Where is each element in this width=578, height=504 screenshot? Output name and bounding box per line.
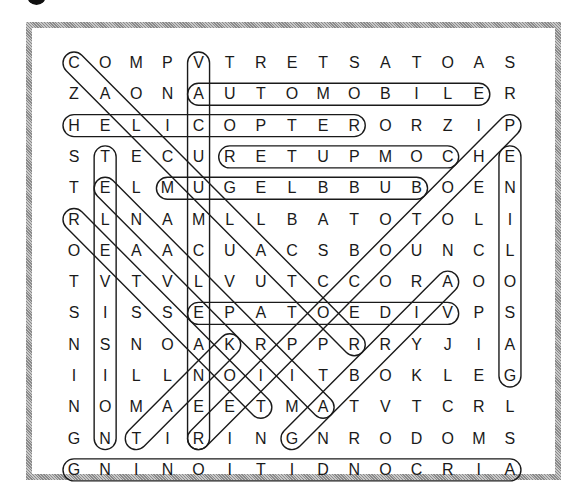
grid-letter[interactable]: O [402, 142, 432, 172]
grid-letter[interactable]: P [308, 330, 338, 360]
grid-letter[interactable]: L [121, 361, 151, 391]
grid-letter[interactable]: A [246, 298, 276, 328]
grid-letter[interactable]: I [277, 455, 307, 485]
grid-letter[interactable]: I [90, 298, 120, 328]
grid-letter[interactable]: I [277, 361, 307, 391]
grid-letter[interactable]: I [402, 79, 432, 109]
grid-letter[interactable]: O [152, 330, 182, 360]
grid-letter[interactable]: T [277, 142, 307, 172]
grid-letter[interactable]: H [464, 142, 494, 172]
grid-letter[interactable]: T [90, 142, 120, 172]
grid-letter[interactable]: R [370, 330, 400, 360]
grid-letter[interactable]: B [277, 205, 307, 235]
grid-letter[interactable]: I [90, 361, 120, 391]
grid-letter[interactable]: M [370, 142, 400, 172]
grid-letter[interactable]: U [215, 236, 245, 266]
grid-letter[interactable]: C [402, 455, 432, 485]
grid-letter[interactable]: T [121, 267, 151, 297]
grid-letter[interactable]: T [402, 392, 432, 422]
grid-letter[interactable]: T [308, 361, 338, 391]
grid-letter[interactable]: O [339, 79, 369, 109]
grid-letter[interactable]: V [152, 267, 182, 297]
grid-letter[interactable]: T [121, 424, 151, 454]
grid-letter[interactable]: A [495, 455, 525, 485]
grid-letter[interactable]: T [246, 392, 276, 422]
grid-letter[interactable]: G [59, 424, 89, 454]
grid-letter[interactable]: A [246, 236, 276, 266]
grid-letter[interactable]: L [215, 205, 245, 235]
grid-letter[interactable]: T [246, 79, 276, 109]
grid-letter[interactable]: L [495, 236, 525, 266]
grid-letter[interactable]: S [90, 330, 120, 360]
grid-letter[interactable]: L [121, 111, 151, 141]
grid-letter[interactable]: T [402, 205, 432, 235]
grid-letter[interactable]: S [59, 142, 89, 172]
grid-letter[interactable]: O [90, 48, 120, 78]
grid-letter[interactable]: A [184, 330, 214, 360]
grid-letter[interactable]: M [152, 173, 182, 203]
grid-letter[interactable]: A [184, 79, 214, 109]
grid-letter[interactable]: K [402, 361, 432, 391]
grid-letter[interactable]: O [308, 298, 338, 328]
grid-letter[interactable]: O [277, 79, 307, 109]
grid-letter[interactable]: R [339, 330, 369, 360]
grid-letter[interactable]: E [246, 142, 276, 172]
grid-letter[interactable]: L [464, 205, 494, 235]
grid-letter[interactable]: E [184, 298, 214, 328]
grid-letter[interactable]: U [246, 267, 276, 297]
grid-letter[interactable]: S [495, 48, 525, 78]
grid-letter[interactable]: R [464, 392, 494, 422]
grid-letter[interactable]: A [308, 392, 338, 422]
grid-letter[interactable]: N [90, 455, 120, 485]
grid-letter[interactable]: O [184, 455, 214, 485]
grid-letter[interactable]: P [246, 111, 276, 141]
grid-letter[interactable]: U [215, 79, 245, 109]
grid-letter[interactable]: O [370, 205, 400, 235]
grid-letter[interactable]: O [433, 48, 463, 78]
grid-letter[interactable]: S [339, 48, 369, 78]
grid-letter[interactable]: N [59, 330, 89, 360]
grid-letter[interactable]: T [277, 267, 307, 297]
grid-letter[interactable]: D [402, 424, 432, 454]
grid-letter[interactable]: A [495, 330, 525, 360]
grid-letter[interactable]: I [215, 455, 245, 485]
grid-letter[interactable]: E [464, 79, 494, 109]
grid-letter[interactable]: E [121, 142, 151, 172]
grid-letter[interactable]: S [121, 298, 151, 328]
grid-letter[interactable]: R [215, 142, 245, 172]
grid-letter[interactable]: P [339, 142, 369, 172]
grid-letter[interactable]: N [152, 455, 182, 485]
grid-letter[interactable]: C [184, 236, 214, 266]
grid-letter[interactable]: A [464, 48, 494, 78]
grid-letter[interactable]: V [90, 267, 120, 297]
grid-letter[interactable]: B [402, 173, 432, 203]
grid-letter[interactable]: E [308, 111, 338, 141]
grid-letter[interactable]: B [339, 236, 369, 266]
grid-letter[interactable]: T [339, 392, 369, 422]
grid-letter[interactable]: R [402, 267, 432, 297]
grid-letter[interactable]: C [308, 267, 338, 297]
grid-letter[interactable]: D [370, 298, 400, 328]
grid-letter[interactable]: R [402, 111, 432, 141]
grid-letter[interactable]: O [90, 392, 120, 422]
grid-letter[interactable]: D [308, 455, 338, 485]
grid-letter[interactable]: B [339, 173, 369, 203]
grid-letter[interactable]: N [339, 455, 369, 485]
grid-letter[interactable]: Y [402, 330, 432, 360]
grid-letter[interactable]: O [433, 173, 463, 203]
grid-letter[interactable]: G [59, 455, 89, 485]
grid-letter[interactable]: N [184, 361, 214, 391]
grid-letter[interactable]: I [59, 361, 89, 391]
grid-letter[interactable]: I [495, 205, 525, 235]
grid-letter[interactable]: R [59, 205, 89, 235]
grid-letter[interactable]: I [152, 424, 182, 454]
grid-letter[interactable]: I [402, 298, 432, 328]
grid-letter[interactable]: T [215, 48, 245, 78]
grid-letter[interactable]: C [184, 111, 214, 141]
grid-letter[interactable]: E [90, 173, 120, 203]
grid-letter[interactable]: L [433, 79, 463, 109]
grid-letter[interactable]: T [277, 298, 307, 328]
grid-letter[interactable]: T [339, 205, 369, 235]
grid-letter[interactable]: K [215, 330, 245, 360]
grid-letter[interactable]: S [59, 298, 89, 328]
